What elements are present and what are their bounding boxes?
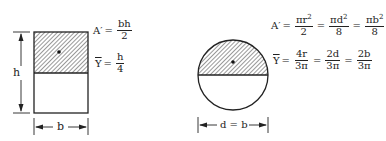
exponent: 2 bbox=[379, 13, 383, 21]
circle-section bbox=[198, 40, 268, 110]
numerator: πr2 bbox=[295, 14, 313, 27]
denominator: 2 bbox=[120, 31, 128, 42]
height-label: h bbox=[13, 67, 20, 78]
denominator: 8 bbox=[370, 27, 378, 38]
exponent: 2 bbox=[343, 13, 347, 21]
rectangle-hatched-half bbox=[34, 32, 88, 73]
circle-centroid-dot bbox=[231, 60, 235, 64]
rectangle-section bbox=[34, 32, 88, 113]
denominator: 3π bbox=[357, 61, 372, 72]
numerator-text: πb bbox=[366, 14, 379, 25]
centroid-symbol: Y bbox=[273, 55, 280, 66]
equals-sign: = bbox=[344, 55, 352, 66]
numerator: πd2 bbox=[329, 14, 348, 27]
rectangle-centroid-dot bbox=[57, 50, 61, 54]
diameter-label: d = b bbox=[220, 120, 248, 130]
numerator-text: πd bbox=[330, 14, 343, 25]
equals-sign: = bbox=[353, 20, 361, 31]
area-symbol: A′ bbox=[93, 25, 103, 36]
equals-sign: = bbox=[313, 55, 321, 66]
numerator: 4r bbox=[295, 49, 308, 61]
fraction: πd2 8 bbox=[329, 14, 348, 37]
numerator-text: πr bbox=[296, 14, 307, 25]
equals-sign: = bbox=[105, 25, 113, 36]
area-symbol: A′ bbox=[271, 20, 281, 31]
exponent: 2 bbox=[307, 13, 311, 21]
numerator: bh bbox=[117, 19, 132, 31]
equals-sign: = bbox=[283, 20, 291, 31]
numerator: 2b bbox=[357, 49, 372, 61]
denominator: 8 bbox=[335, 27, 343, 38]
fraction: πb2 8 bbox=[365, 14, 384, 37]
fraction: 2b 3π bbox=[357, 49, 372, 71]
numerator: 2d bbox=[325, 49, 340, 61]
circle-area-formula: A′ = πr2 2 = πd2 8 = πb2 8 bbox=[271, 14, 386, 37]
rectangle-area-formula: A′ = bh 2 bbox=[93, 19, 134, 41]
width-label: b bbox=[57, 121, 64, 132]
equals-sign: = bbox=[104, 58, 112, 69]
denominator: 2 bbox=[300, 27, 308, 38]
circle-centroid-formula: Y = 4r 3π = 2d 3π = 2b 3π bbox=[273, 49, 374, 71]
equals-sign: = bbox=[317, 20, 325, 31]
centroid-symbol: Y bbox=[95, 58, 102, 69]
rectangle-centroid-formula: Y = h 4 bbox=[95, 52, 126, 74]
fraction: πr2 2 bbox=[295, 14, 313, 37]
fraction: h 4 bbox=[116, 52, 124, 74]
denominator: 3π bbox=[294, 61, 309, 72]
fraction: bh 2 bbox=[117, 19, 132, 41]
numerator: πb2 bbox=[365, 14, 384, 27]
fraction: 2d 3π bbox=[325, 49, 340, 71]
denominator: 3π bbox=[325, 61, 340, 72]
fraction: 4r 3π bbox=[294, 49, 309, 71]
numerator: h bbox=[116, 52, 124, 64]
equals-sign: = bbox=[282, 55, 290, 66]
denominator: 4 bbox=[116, 64, 124, 75]
